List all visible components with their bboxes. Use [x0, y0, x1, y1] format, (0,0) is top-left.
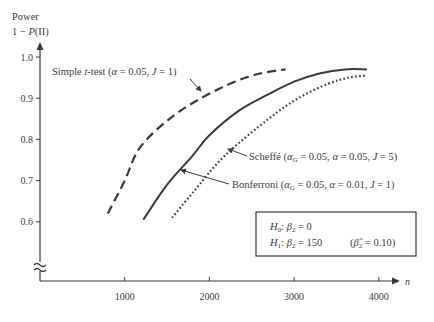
y-axis-title-line1: Power [12, 11, 39, 22]
annotation-simple-t-test: Simple t-test (α = 0.05, J = 1) [52, 66, 177, 78]
x-axis: n [40, 276, 410, 287]
curves [108, 69, 367, 220]
y-tick-label: 0.6 [21, 216, 34, 227]
annotation-arrow-scheffe [228, 149, 247, 156]
curve-bonferroni [143, 69, 367, 220]
hypothesis-box: H0: β2 = 0 H1: β2 = 150 (β̃2 = 0.10) [256, 212, 416, 256]
x-tick-label: 2000 [199, 291, 219, 302]
y-ticks: 0.60.70.80.91.0 [21, 52, 41, 228]
curve-scheffe [172, 76, 367, 218]
annotation-scheffe: Scheffé (αG = 0.05, α = 0.05, J = 5) [249, 151, 398, 164]
y-axis-arrow-icon [37, 42, 44, 50]
x-tick-label: 3000 [284, 291, 304, 302]
y-tick-label: 1.0 [21, 52, 34, 63]
y-axis-title-line2: 1 − P(II) [12, 26, 49, 38]
x-tick-label: 1000 [115, 291, 135, 302]
power-chart: Power 1 − P(II) 0.60.70.80.91.0 n 100020… [0, 0, 434, 322]
annotation-arrow-t-test [190, 79, 201, 91]
y-axis [34, 42, 46, 281]
x-axis-arrow-icon [392, 278, 400, 285]
y-tick-label: 0.8 [21, 134, 34, 145]
x-tick-label: 4000 [369, 291, 389, 302]
annotation-arrow-bonferroni [181, 170, 229, 184]
curve-simple-t-test [108, 69, 286, 213]
x-axis-label: n [405, 276, 410, 287]
axis-break-icon [34, 264, 46, 272]
y-tick-label: 0.7 [21, 175, 34, 186]
y-tick-label: 0.9 [21, 93, 34, 104]
annotation-bonferroni: Bonferroni (αG = 0.05, α = 0.01, J = 1) [232, 179, 395, 192]
